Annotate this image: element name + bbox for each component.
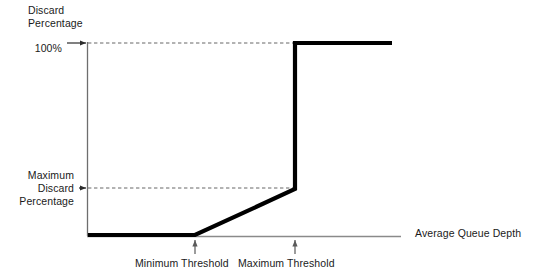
discard-probability-curve (88, 43, 392, 235)
chart-vector-layer (0, 0, 537, 279)
red-discard-curve-figure: Discard Percentage 100% Maximum Discard … (0, 0, 537, 279)
